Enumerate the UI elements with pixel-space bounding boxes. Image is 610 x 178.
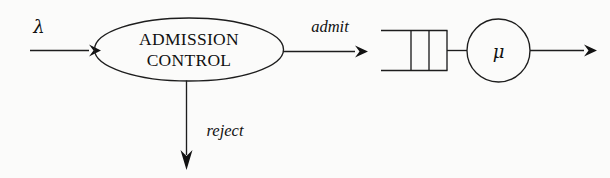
- admission-control-node: ADMISSION CONTROL: [95, 18, 284, 81]
- service-rate-label: μ: [493, 41, 505, 62]
- admission-control-label-line2: CONTROL: [147, 50, 232, 70]
- reject-edge: reject: [181, 81, 244, 171]
- admission-control-label-line1: ADMISSION: [139, 29, 239, 49]
- server-node: μ: [467, 19, 530, 82]
- arrival-edge: λ: [30, 16, 101, 57]
- queue-node: [381, 31, 448, 71]
- diagram-canvas: λ ADMISSION CONTROL reject admit: [0, 0, 610, 178]
- admit-arrowhead-icon: [355, 46, 368, 58]
- diagram-svg: λ ADMISSION CONTROL reject admit: [0, 0, 610, 178]
- admit-edge: admit: [283, 17, 368, 58]
- admit-label: admit: [311, 17, 349, 36]
- arrival-rate-label: λ: [32, 16, 44, 37]
- reject-label: reject: [207, 121, 244, 140]
- departure-arrowhead-icon: [584, 45, 597, 57]
- departure-edge: [530, 45, 597, 57]
